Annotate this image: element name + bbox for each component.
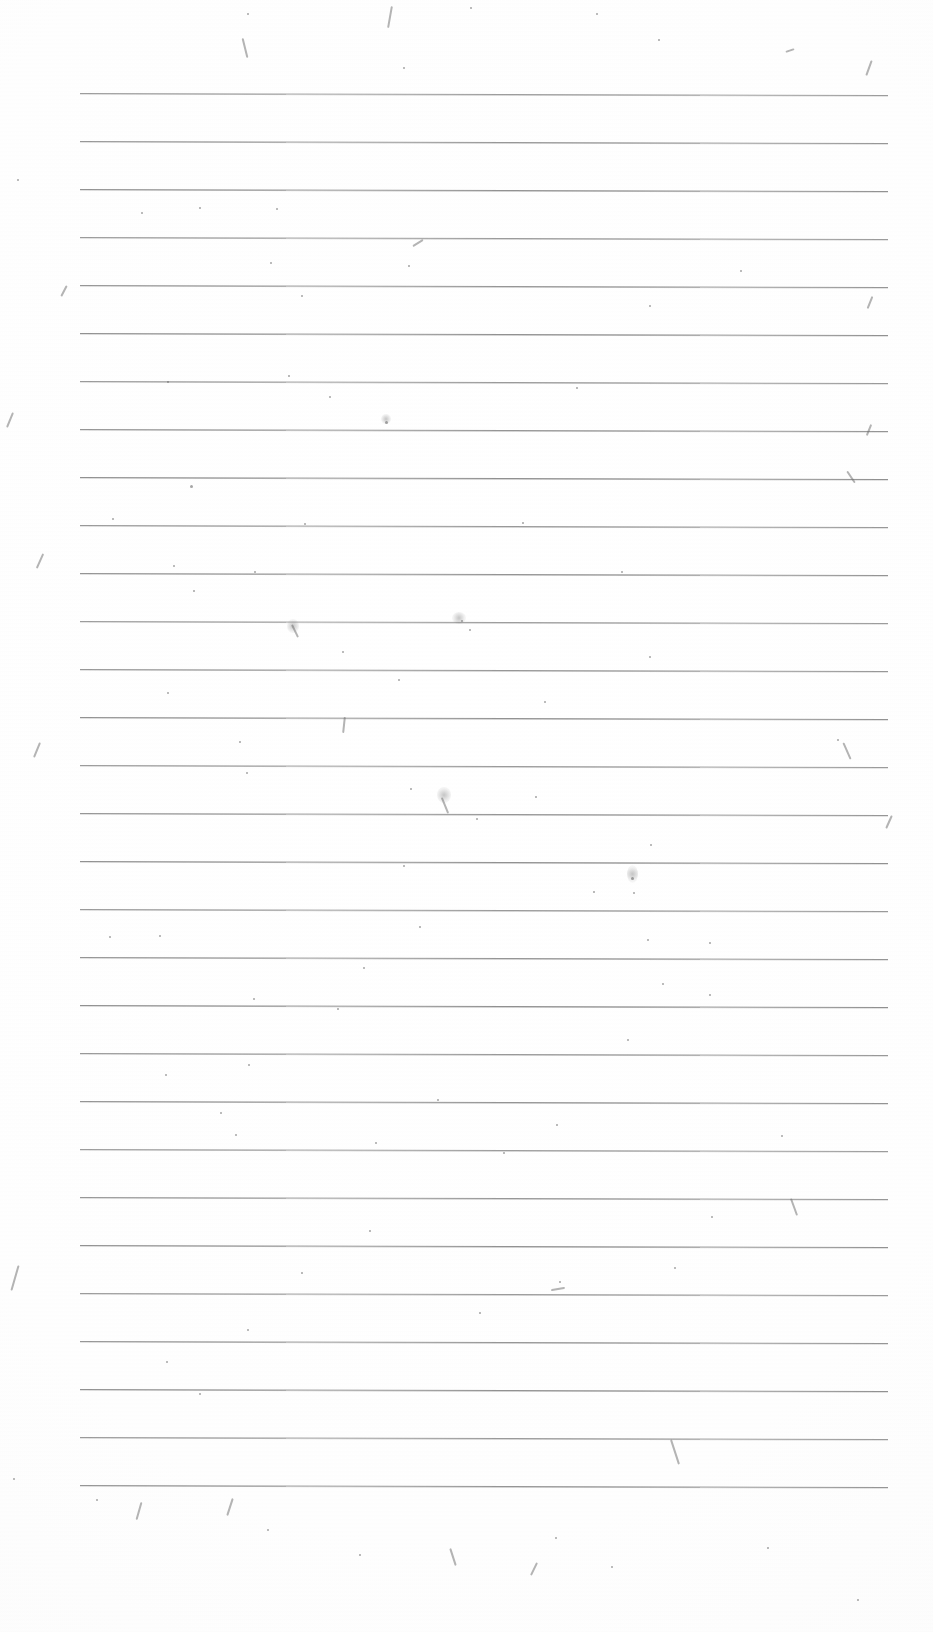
rule-line bbox=[80, 1245, 888, 1248]
rule-line bbox=[80, 861, 888, 864]
rule-line bbox=[80, 1341, 888, 1344]
rule-line bbox=[80, 1293, 888, 1296]
ruled-lines-layer bbox=[0, 0, 933, 1632]
rule-line bbox=[80, 1197, 888, 1200]
rule-line bbox=[80, 1485, 888, 1488]
rule-line bbox=[80, 285, 888, 288]
rule-line bbox=[80, 141, 888, 144]
rule-line bbox=[80, 765, 888, 768]
rule-line bbox=[80, 957, 888, 960]
rule-line bbox=[80, 813, 888, 816]
rule-line bbox=[80, 429, 888, 432]
rule-line bbox=[80, 237, 888, 240]
rule-line bbox=[80, 621, 888, 624]
rule-line bbox=[80, 909, 888, 912]
rule-line bbox=[80, 333, 888, 336]
rule-line bbox=[80, 669, 888, 672]
rule-line bbox=[80, 525, 888, 528]
rule-line bbox=[80, 189, 888, 192]
rule-line bbox=[80, 573, 888, 576]
rule-line bbox=[80, 1005, 888, 1008]
rule-line bbox=[80, 1437, 888, 1440]
rule-line bbox=[80, 717, 888, 720]
rule-line bbox=[80, 1053, 888, 1056]
rule-line bbox=[80, 381, 888, 384]
rule-line bbox=[80, 1149, 888, 1152]
rule-line bbox=[80, 1389, 888, 1392]
rule-line bbox=[80, 93, 888, 96]
scanned-page: Scanned blank sheet of wide-ruled lined … bbox=[0, 0, 933, 1632]
rule-line bbox=[80, 1101, 888, 1104]
rule-line bbox=[80, 477, 888, 480]
